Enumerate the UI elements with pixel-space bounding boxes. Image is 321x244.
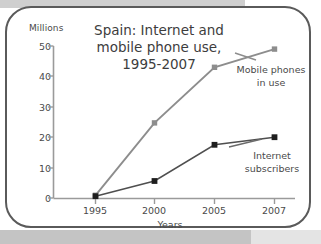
chart-screenshot: Millions Spain: Internet and mobile phon…: [0, 0, 321, 244]
series-mobile-phones: [93, 46, 277, 198]
data-point-internet-2005: [212, 142, 218, 148]
data-point-mobile-2005: [212, 65, 217, 70]
data-point-internet-2000: [152, 178, 158, 184]
series-mobile-phones-line: [96, 49, 275, 195]
page-background-bottom-band: [0, 230, 251, 244]
y-axis-ticks: [48, 46, 54, 198]
chart-plot-area: [7, 8, 313, 230]
page-background-bottom-band-right: [251, 230, 321, 244]
data-point-mobile-2007: [272, 46, 277, 51]
chart-card: Millions Spain: Internet and mobile phon…: [5, 6, 311, 228]
data-point-internet-1995: [93, 193, 99, 199]
data-point-internet-2007: [272, 134, 278, 140]
series-internet-subscribers-line: [96, 137, 275, 196]
data-point-mobile-2000: [152, 120, 157, 125]
series-internet-subscribers: [93, 134, 278, 199]
